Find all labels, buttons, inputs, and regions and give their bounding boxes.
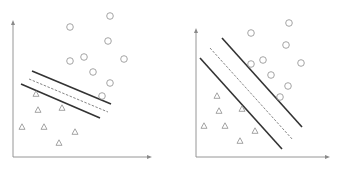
triangle-marker-icon (252, 128, 258, 134)
panel-narrow-margin (11, 13, 152, 159)
upper-margin-line (222, 38, 302, 127)
triangle-marker-icon (72, 129, 78, 135)
y-axis-arrow-icon (11, 20, 15, 25)
upper-margin-line (32, 71, 111, 104)
circle-marker-icon (107, 80, 114, 87)
triangle-marker-icon (41, 124, 47, 130)
triangle-marker-icon (59, 105, 65, 111)
circle-marker-icon (277, 94, 284, 101)
lower-margin-line (21, 84, 100, 118)
circle-marker-icon (286, 20, 293, 27)
circle-marker-icon (298, 60, 305, 67)
circle-marker-icon (105, 38, 112, 45)
svm-margin-diagram (0, 0, 337, 169)
triangle-marker-icon (201, 123, 207, 129)
decision-boundary-line (29, 79, 108, 112)
triangle-marker-icon (56, 140, 62, 146)
circle-marker-icon (99, 93, 106, 100)
circle-marker-icon (67, 24, 74, 31)
triangle-marker-icon (237, 138, 243, 144)
circle-marker-icon (283, 42, 290, 49)
y-axis-arrow-icon (194, 28, 198, 33)
circle-marker-icon (260, 57, 267, 64)
triangle-marker-icon (214, 93, 220, 99)
circle-marker-icon (248, 61, 255, 68)
circle-marker-icon (67, 58, 74, 65)
triangle-marker-icon (222, 123, 228, 129)
triangle-marker-icon (19, 124, 25, 130)
x-axis-arrow-icon (325, 155, 330, 159)
circle-marker-icon (90, 69, 97, 76)
circle-marker-icon (248, 30, 255, 37)
circle-marker-icon (107, 13, 114, 20)
circle-marker-icon (81, 54, 88, 61)
x-axis-arrow-icon (147, 155, 152, 159)
triangle-marker-icon (35, 107, 41, 113)
circle-marker-icon (121, 56, 128, 63)
circle-marker-icon (268, 72, 275, 79)
triangle-marker-icon (216, 108, 222, 114)
panel-wide-margin (194, 20, 330, 159)
circle-marker-icon (285, 83, 292, 90)
